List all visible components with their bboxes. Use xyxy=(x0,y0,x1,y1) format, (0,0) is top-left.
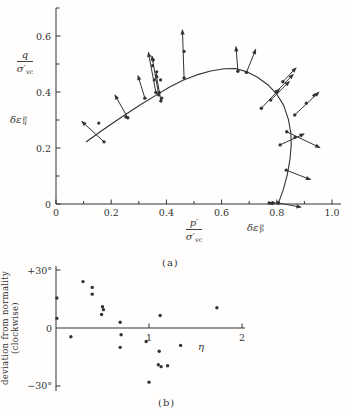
scatter-point xyxy=(157,363,160,366)
plot-b-y-tick-label: 0 xyxy=(46,323,52,334)
scatter-point xyxy=(101,305,104,308)
plot-a-y-tick-label: 0 xyxy=(45,199,51,210)
strain-vector-line xyxy=(156,74,161,101)
yield-point xyxy=(97,121,100,124)
strain-vector-line xyxy=(182,30,184,78)
scatter-point xyxy=(159,365,162,368)
plot-a-ylabel-strain: δεpq xyxy=(10,114,28,127)
plot-a-ylabel-denominator-sub: vc xyxy=(26,68,33,76)
plot-a-y-tick-label: 0.2 xyxy=(36,143,51,154)
scatter-point xyxy=(147,380,150,383)
scatter-point xyxy=(118,346,121,349)
plot-b-y-tick-label: −30° xyxy=(27,380,52,391)
plot-a-ylabel-numerator: q xyxy=(17,49,33,62)
plot-a-y-tick-label: 0.6 xyxy=(36,31,51,42)
scatter-point xyxy=(158,314,161,317)
plot-a-ylabel-strain-scripts: pq xyxy=(21,114,28,127)
scatter-point xyxy=(166,364,169,367)
yield-point xyxy=(245,71,248,74)
plot-a-ylabel-fraction: q σ′vc xyxy=(12,49,38,78)
yield-point xyxy=(275,90,278,93)
yield-point xyxy=(124,115,127,118)
yield-point xyxy=(182,76,185,79)
scatter-point xyxy=(119,333,122,336)
yield-point xyxy=(312,94,315,97)
yield-point xyxy=(305,102,308,105)
plot-a-x-tick-label: 0.8 xyxy=(269,207,284,218)
scatter-point xyxy=(91,292,94,295)
yield-point xyxy=(155,70,158,73)
yield-point xyxy=(152,58,155,61)
scatter-point xyxy=(158,349,161,352)
yield-point xyxy=(284,168,287,171)
strain-vector-arrowhead xyxy=(115,94,120,100)
scatter-point xyxy=(100,313,103,316)
plot-b-x-tick-label: 2 xyxy=(239,332,245,343)
scatter-point xyxy=(145,340,148,343)
plot-a-x-tick-label: 0 xyxy=(53,207,59,218)
yield-locus-curve xyxy=(86,69,291,203)
caption-a: (a) xyxy=(162,257,179,268)
strain-vector-arrowhead xyxy=(315,144,321,148)
scatter-point xyxy=(69,335,72,338)
yield-point xyxy=(276,201,279,204)
yield-point xyxy=(153,78,156,81)
scatter-point xyxy=(91,286,94,289)
yield-point xyxy=(281,80,284,83)
yield-point xyxy=(285,130,288,133)
yield-point xyxy=(143,96,146,99)
plot-a-x-tick-label: 1.0 xyxy=(324,207,339,218)
yield-point xyxy=(278,143,281,146)
scatter-point xyxy=(102,308,105,311)
plot-a-x-tick-label: 0.4 xyxy=(159,207,174,218)
yield-point xyxy=(154,91,157,94)
yield-point xyxy=(102,140,105,143)
plot-a-xlabel-strain-scripts: pp xyxy=(258,222,265,235)
scatter-point xyxy=(55,296,58,299)
strain-vector-arrowhead xyxy=(147,51,151,57)
plot-b-xlabel-eta: η xyxy=(198,341,204,352)
scatter-point xyxy=(55,317,58,320)
plot-a-xlabel-numerator: p′ xyxy=(186,217,202,230)
caption-b: (b) xyxy=(158,397,175,408)
strain-vector-arrowhead xyxy=(137,75,141,81)
yield-point xyxy=(260,107,263,110)
yield-point xyxy=(158,91,161,94)
strain-vector-arrowhead xyxy=(299,133,305,137)
plot-a-x-tick-label: 0.2 xyxy=(104,207,119,218)
yield-point xyxy=(151,64,154,67)
yield-point xyxy=(159,78,162,81)
strain-vector-arrowhead xyxy=(296,204,302,208)
yield-point xyxy=(182,50,185,53)
plot-a-xlabel-fraction: p′ σ′vc xyxy=(180,217,208,246)
plot-a-x-tick-label: 0.6 xyxy=(214,207,229,218)
plot-a-ylabel-denominator: σ′vc xyxy=(12,62,38,78)
plot-a-xlabel-denominator-sub: vc xyxy=(195,236,202,244)
scatter-point xyxy=(215,306,218,309)
chart-canvas: 00.20.40.60.81.000.20.40.6+30°0−30°12 xyxy=(0,0,346,414)
figure-yield-locus-normality: 00.20.40.60.81.000.20.40.6+30°0−30°12 q … xyxy=(0,0,346,414)
strain-vector-arrowhead xyxy=(234,46,238,52)
strain-vector-arrowhead xyxy=(305,176,311,180)
plot-a-xlabel-denominator: σ′vc xyxy=(180,230,208,246)
scatter-point xyxy=(179,344,182,347)
yield-point xyxy=(160,97,163,100)
plot-b-ylabel-line1: deviation from normality xyxy=(0,271,10,385)
yield-point xyxy=(269,98,272,101)
yield-point xyxy=(236,70,239,73)
strain-vector-arrowhead xyxy=(180,29,184,35)
yield-point xyxy=(293,113,296,116)
plot-b-y-tick-label: +30° xyxy=(27,265,52,276)
scatter-point xyxy=(81,280,84,283)
strain-vector-arrowhead xyxy=(252,49,256,55)
plot-a-xlabel-strain: δεpp xyxy=(247,222,265,235)
plot-a-y-tick-label: 0.4 xyxy=(36,87,51,98)
yield-point xyxy=(159,99,162,102)
scatter-point xyxy=(118,321,121,324)
plot-b-ylabel-line2: (clockwise) xyxy=(10,302,20,354)
